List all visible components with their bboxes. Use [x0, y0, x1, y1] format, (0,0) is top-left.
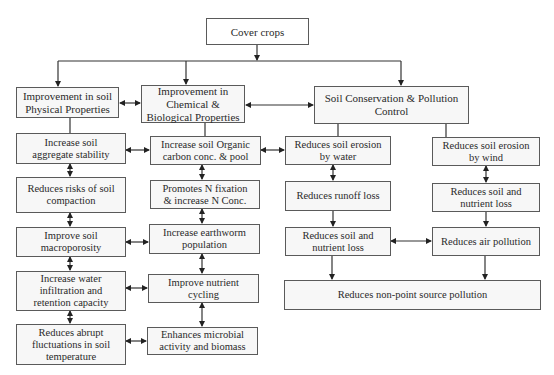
physical-item-macroporosity: Improve soil macroporosity — [16, 227, 126, 257]
chemical-item-nutrient-cycling: Improve nutrient cycling — [148, 274, 259, 303]
non-point-source-pollution-box: Reduces non-point source pollution — [284, 280, 541, 310]
physical-item-compaction: Reduces risks of soil compaction — [16, 177, 126, 213]
physical-properties-box: Improvement in soil Physical Properties — [16, 87, 119, 118]
physical-item-soil-temperature: Reduces abrupt fluctuations in soil temp… — [16, 324, 126, 365]
cover-crops-box: Cover crops — [206, 18, 309, 45]
water-item-runoff-loss: Reduces runoff loss — [285, 181, 391, 211]
wind-item-air-pollution: Reduces air pollution — [432, 227, 540, 256]
chemical-item-n-fixation: Promotes N fixation & increase N Conc. — [150, 180, 260, 209]
wind-item-soil-nutrient-loss: Reduces soil and nutrient loss — [432, 183, 540, 212]
chemical-item-earthworm: Increase earthworm population — [149, 224, 260, 254]
wind-item-erosion-by-wind: Reduces soil erosion by wind — [432, 137, 540, 166]
physical-item-aggregate-stability: Increase soil aggregate stability — [16, 133, 126, 164]
soil-conservation-box: Soil Conservation & Pollution Control — [314, 86, 469, 124]
chemical-item-microbial-activity: Enhances microbial activity and biomass — [147, 327, 258, 355]
water-item-erosion-by-water: Reduces soil erosion by water — [285, 136, 391, 165]
chemical-biological-properties-box: Improvement in Chemical & Biological Pro… — [141, 85, 245, 123]
physical-item-water-infiltration: Increase water infiltration and retentio… — [16, 271, 126, 311]
water-item-soil-nutrient-loss: Reduces soil and nutrient loss — [285, 227, 391, 256]
chemical-item-organic-carbon: Increase soil Organic carbon conc. & poo… — [150, 136, 261, 165]
